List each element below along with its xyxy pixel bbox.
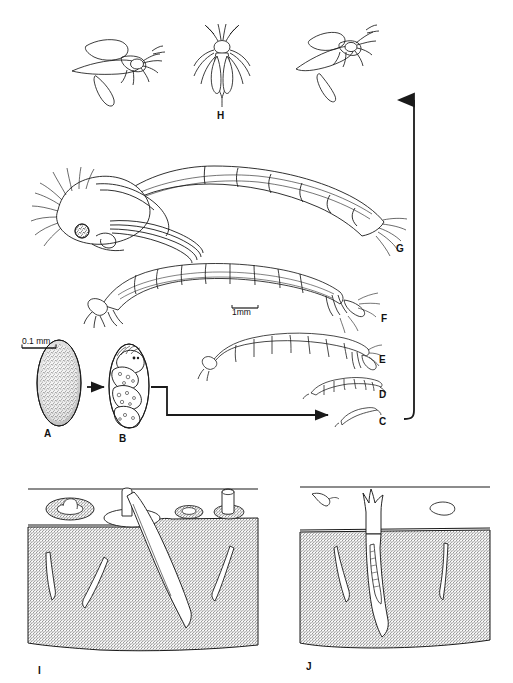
stage-label-h: H (217, 110, 224, 121)
arrow-b-to-c (151, 387, 328, 415)
stage-label-i: I (38, 665, 41, 676)
figure-canvas (0, 0, 513, 683)
egg-stage-b-embryo (109, 344, 149, 428)
scale-bar-larva-label: 1mm (232, 307, 251, 317)
habitat-panel-i (28, 488, 258, 651)
stage-label-a: A (44, 428, 51, 439)
stage-label-j: J (306, 661, 312, 672)
stage-label-f: F (381, 313, 387, 324)
egg-stage-a (37, 340, 81, 426)
stage-label-b: B (119, 433, 126, 444)
larva-stage-d (303, 378, 386, 399)
adult-midge-left (72, 40, 165, 106)
stage-label-g: G (396, 243, 404, 254)
habitat-panel-j (300, 487, 490, 648)
stage-label-d: D (379, 389, 386, 400)
adult-midge-center-dorsal (194, 24, 250, 107)
larva-stage-c (335, 408, 381, 427)
scale-bar-egg-label: 0.1 mm (22, 336, 50, 346)
life-cycle-figure: 0.1 mm 1mm A B C D E F G H I J (0, 0, 513, 683)
pupa-stage-g (31, 166, 407, 263)
larva-stage-e (198, 333, 382, 381)
stage-label-e: E (379, 354, 386, 365)
adult-midge-right (296, 25, 379, 102)
arrow-cycle-up (404, 100, 414, 419)
larva-stage-f (84, 264, 380, 334)
stage-label-c: C (379, 416, 386, 427)
